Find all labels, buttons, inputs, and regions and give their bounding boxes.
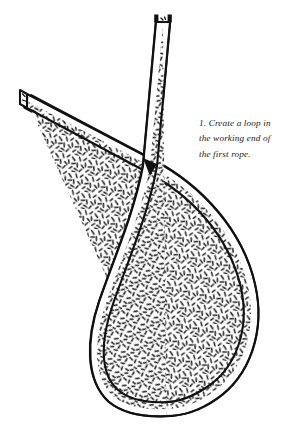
rope-loop-figure [0, 0, 308, 433]
caption-line-1: 1. Create a loop in [199, 116, 291, 131]
whipping-mark-left [154, 15, 158, 23]
caption-line-2: the working end of [199, 131, 291, 146]
rope-working-end [0, 0, 308, 433]
caption-line-3: the first rope. [199, 147, 291, 162]
rope-end-standing [20, 90, 27, 108]
rope-end-working [154, 15, 172, 23]
whipping-mark-right [168, 15, 172, 23]
caption: 1. Create a loop in the working end of t… [199, 116, 291, 162]
